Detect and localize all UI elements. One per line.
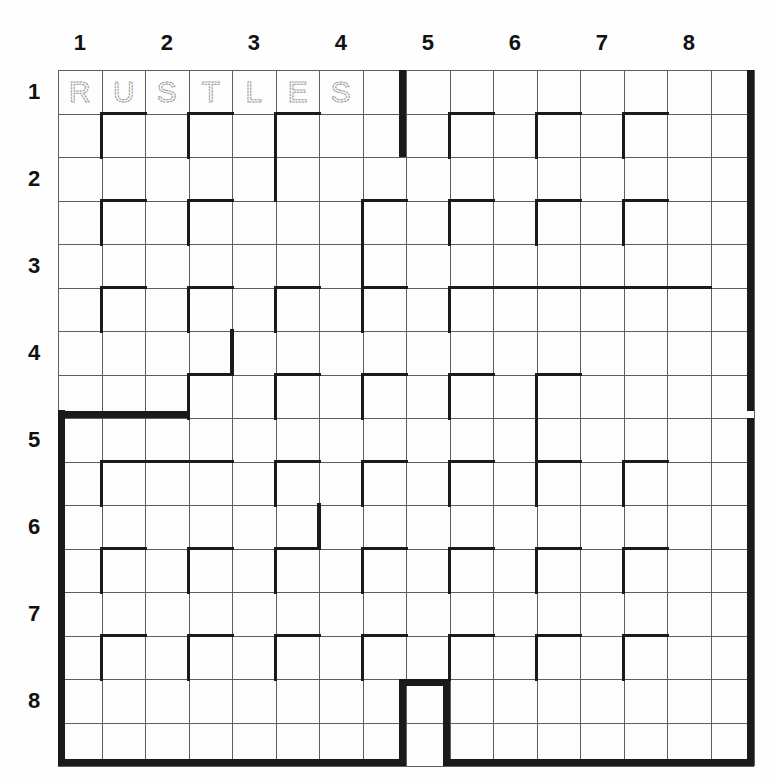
maze-cell[interactable] xyxy=(102,462,146,506)
maze-cell[interactable] xyxy=(580,549,624,593)
maze-cell[interactable] xyxy=(537,679,581,723)
maze-cell[interactable] xyxy=(102,592,146,636)
maze-cell[interactable] xyxy=(276,157,320,201)
maze-cell[interactable] xyxy=(624,636,668,680)
maze-cell[interactable] xyxy=(667,592,711,636)
maze-cell[interactable] xyxy=(537,549,581,593)
maze-cell[interactable] xyxy=(319,114,363,158)
maze-cell[interactable] xyxy=(319,462,363,506)
maze-cell[interactable] xyxy=(667,636,711,680)
maze-cell[interactable] xyxy=(363,549,407,593)
maze-cell[interactable] xyxy=(58,157,102,201)
maze-cell[interactable] xyxy=(537,114,581,158)
maze-cell[interactable] xyxy=(406,592,450,636)
maze-cell[interactable] xyxy=(319,505,363,549)
maze-cell[interactable] xyxy=(276,114,320,158)
maze-cell[interactable] xyxy=(145,462,189,506)
maze-cell[interactable] xyxy=(232,201,276,245)
maze-cell[interactable] xyxy=(145,549,189,593)
maze-cell[interactable] xyxy=(406,244,450,288)
maze-cell[interactable] xyxy=(624,375,668,419)
maze-cell[interactable] xyxy=(145,288,189,332)
maze-cell[interactable] xyxy=(580,288,624,332)
maze-cell[interactable] xyxy=(624,331,668,375)
maze-cell[interactable] xyxy=(232,636,276,680)
maze-cell[interactable] xyxy=(493,244,537,288)
maze-cell[interactable] xyxy=(450,592,494,636)
maze-cell[interactable] xyxy=(493,375,537,419)
maze-cell[interactable] xyxy=(319,331,363,375)
maze-cell[interactable] xyxy=(319,375,363,419)
maze-cell[interactable] xyxy=(406,375,450,419)
maze-cell[interactable] xyxy=(537,244,581,288)
maze-cell[interactable] xyxy=(319,157,363,201)
maze-cell[interactable] xyxy=(102,418,146,462)
maze-cell[interactable] xyxy=(319,201,363,245)
maze-cell[interactable] xyxy=(276,331,320,375)
maze-cell[interactable] xyxy=(232,549,276,593)
maze-cell[interactable] xyxy=(580,505,624,549)
maze-grid[interactable]: RUSTLES xyxy=(58,70,754,753)
maze-cell[interactable] xyxy=(145,331,189,375)
maze-cell[interactable] xyxy=(537,636,581,680)
maze-cell[interactable] xyxy=(189,679,233,723)
maze-cell[interactable] xyxy=(667,331,711,375)
maze-cell[interactable] xyxy=(667,201,711,245)
maze-cell[interactable] xyxy=(580,331,624,375)
maze-cell[interactable] xyxy=(493,114,537,158)
maze-cell[interactable] xyxy=(189,201,233,245)
maze-cell[interactable] xyxy=(493,679,537,723)
maze-cell[interactable] xyxy=(537,157,581,201)
maze-cell[interactable] xyxy=(145,592,189,636)
maze-cell[interactable] xyxy=(450,70,494,114)
maze-cell[interactable] xyxy=(537,70,581,114)
maze-cell[interactable] xyxy=(189,636,233,680)
maze-cell[interactable] xyxy=(667,375,711,419)
maze-cell[interactable] xyxy=(363,288,407,332)
maze-cell[interactable] xyxy=(232,114,276,158)
maze-cell[interactable] xyxy=(189,462,233,506)
maze-cell[interactable] xyxy=(580,244,624,288)
maze-cell[interactable] xyxy=(580,201,624,245)
maze-cell[interactable] xyxy=(667,288,711,332)
maze-cell[interactable] xyxy=(537,505,581,549)
maze-cell[interactable] xyxy=(493,505,537,549)
maze-cell[interactable] xyxy=(450,288,494,332)
maze-cell[interactable] xyxy=(406,505,450,549)
maze-cell[interactable] xyxy=(276,549,320,593)
maze-cell[interactable] xyxy=(363,244,407,288)
maze-cell[interactable] xyxy=(667,505,711,549)
maze-cell[interactable] xyxy=(406,288,450,332)
maze-cell[interactable] xyxy=(537,201,581,245)
maze-cell[interactable] xyxy=(363,157,407,201)
maze-cell[interactable] xyxy=(102,114,146,158)
maze-cell[interactable] xyxy=(493,636,537,680)
maze-cell[interactable] xyxy=(58,201,102,245)
maze-cell[interactable] xyxy=(624,70,668,114)
maze-cell[interactable] xyxy=(276,592,320,636)
maze-cell[interactable] xyxy=(145,418,189,462)
maze-cell[interactable] xyxy=(58,244,102,288)
maze-cell[interactable] xyxy=(537,288,581,332)
maze-cell[interactable] xyxy=(667,157,711,201)
maze-cell[interactable] xyxy=(102,636,146,680)
maze-cell[interactable] xyxy=(624,114,668,158)
maze-cell[interactable] xyxy=(450,244,494,288)
maze-cell[interactable] xyxy=(276,288,320,332)
maze-cell[interactable] xyxy=(624,201,668,245)
maze-cell[interactable] xyxy=(406,201,450,245)
maze-cell[interactable] xyxy=(363,201,407,245)
maze-cell[interactable] xyxy=(450,201,494,245)
maze-cell[interactable] xyxy=(102,288,146,332)
maze-cell[interactable] xyxy=(667,70,711,114)
maze-cell[interactable] xyxy=(189,592,233,636)
maze-cell[interactable] xyxy=(580,418,624,462)
maze-cell[interactable] xyxy=(450,418,494,462)
maze-cell[interactable] xyxy=(189,505,233,549)
maze-cell[interactable] xyxy=(363,331,407,375)
maze-cell[interactable] xyxy=(406,70,450,114)
maze-cell[interactable] xyxy=(145,679,189,723)
maze-cell[interactable] xyxy=(102,201,146,245)
maze-cell[interactable] xyxy=(276,244,320,288)
maze-cell[interactable] xyxy=(145,636,189,680)
